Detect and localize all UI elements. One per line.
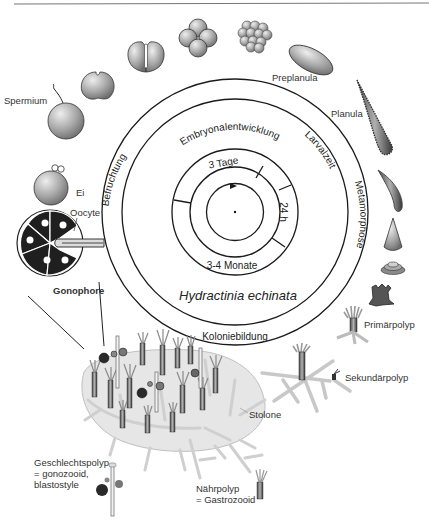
four-cell-stage xyxy=(179,19,217,57)
life-cycle-diagram: Embryonalentwicklung Befruchtung Larvalz… xyxy=(0,0,429,523)
label-3-4-monate: 3-4 Monate xyxy=(207,260,258,271)
label-primaerpolyp: Primärpolyp xyxy=(364,319,415,330)
center-dot xyxy=(234,211,236,213)
gonophore-zoom-line-left xyxy=(28,296,84,349)
label-gonozooid: = gonozooid, xyxy=(34,468,89,479)
label-metamorphose: Metamorphose xyxy=(353,179,370,250)
label-stolone: Stolone xyxy=(249,409,281,420)
two-cell-stage xyxy=(128,42,164,72)
label-spermium: Spermium xyxy=(4,95,47,106)
label-planula: Planula xyxy=(331,108,363,119)
svg-text:Larvalzeit: Larvalzeit xyxy=(303,129,338,171)
species-title: Hydractinia echinata xyxy=(179,288,297,303)
label-preplanula: Preplanula xyxy=(272,72,318,83)
spermium-cell xyxy=(48,84,84,139)
metamorphosis-disc xyxy=(381,262,405,275)
label-larvalzeit: Larvalzeit xyxy=(303,129,338,171)
metamorphosis-larva-curved xyxy=(378,170,402,211)
label-oocyte: Oocyte xyxy=(70,207,100,218)
label-gastrozooid: = Gastrozooid xyxy=(196,494,255,505)
label-blastostyle: blastostyle xyxy=(34,479,79,490)
morula-stage xyxy=(238,21,272,53)
metamorphosis-cone xyxy=(384,218,402,250)
ei-egg xyxy=(34,165,68,205)
label-embryonalentwicklung: Embryonalentwicklung xyxy=(178,121,282,147)
naehrpolyp-example xyxy=(256,469,267,499)
gonophore xyxy=(17,210,104,276)
geschlechtspolyp-example xyxy=(96,463,123,516)
label-befruchtung: Befruchtung xyxy=(100,151,128,206)
label-naehrpolyp: Nährpolyp xyxy=(196,483,239,494)
sekundaerpolyp-colony xyxy=(262,343,350,411)
metamorphosis-early-polyp xyxy=(369,284,394,306)
label-geschlechtspolyp: Geschlechtspolyp xyxy=(34,457,109,468)
svg-text:Befruchtung: Befruchtung xyxy=(100,151,128,206)
label-sekundaerpolyp: Sekundärpolyp xyxy=(345,372,408,383)
label-ei: Ei xyxy=(76,187,84,198)
zygote-first-cleavage xyxy=(81,72,114,99)
label-koloniebildung: Koloniebildung xyxy=(202,331,268,342)
svg-text:Metamorphose: Metamorphose xyxy=(353,179,370,250)
top-rule xyxy=(14,3,429,4)
svg-text:Embryonalentwicklung: Embryonalentwicklung xyxy=(178,121,282,147)
label-gonophore: Gonophore xyxy=(53,285,104,296)
label-24h: 24 h xyxy=(278,202,289,221)
